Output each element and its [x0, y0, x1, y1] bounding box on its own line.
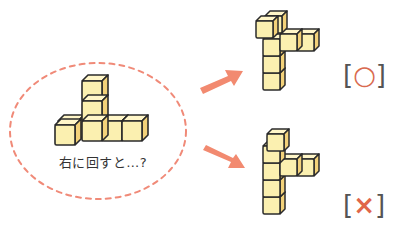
option-a-block-shape: [256, 11, 319, 90]
original-block-shape: [55, 75, 148, 145]
option-b-result: [×]: [343, 192, 385, 218]
option-b-block-shape: [263, 129, 319, 214]
bracket-close: ]: [375, 190, 385, 220]
arrow-to-option-a: [200, 70, 243, 94]
question-caption: 右に回すと…?: [48, 152, 158, 171]
option-a-result: [○]: [343, 62, 386, 88]
bracket-open: [: [343, 60, 353, 90]
circle-mark-icon: ○: [353, 60, 376, 90]
arrow-to-option-b: [203, 145, 245, 168]
diagram-canvas: [0, 0, 394, 225]
bracket-open: [: [343, 190, 353, 220]
cross-mark-icon: ×: [353, 190, 375, 220]
bracket-close: ]: [376, 60, 386, 90]
